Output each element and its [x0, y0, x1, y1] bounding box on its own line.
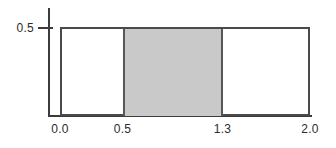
x-axis-tick-label-3: 2.0 — [301, 122, 319, 136]
x-axis-tick-label-2: 1.3 — [214, 122, 232, 136]
y-axis-line — [48, 8, 50, 117]
uniform-density-chart: 0.5 0.0 0.5 1.3 2.0 — [0, 0, 336, 148]
y-axis-tick-mark — [38, 27, 53, 29]
x-axis-tick-label-1: 0.5 — [114, 122, 132, 136]
x-axis-tick-label-0: 0.0 — [51, 122, 69, 136]
y-axis-tick-label-0: 0.5 — [0, 21, 34, 35]
shaded-probability-region — [123, 29, 223, 116]
